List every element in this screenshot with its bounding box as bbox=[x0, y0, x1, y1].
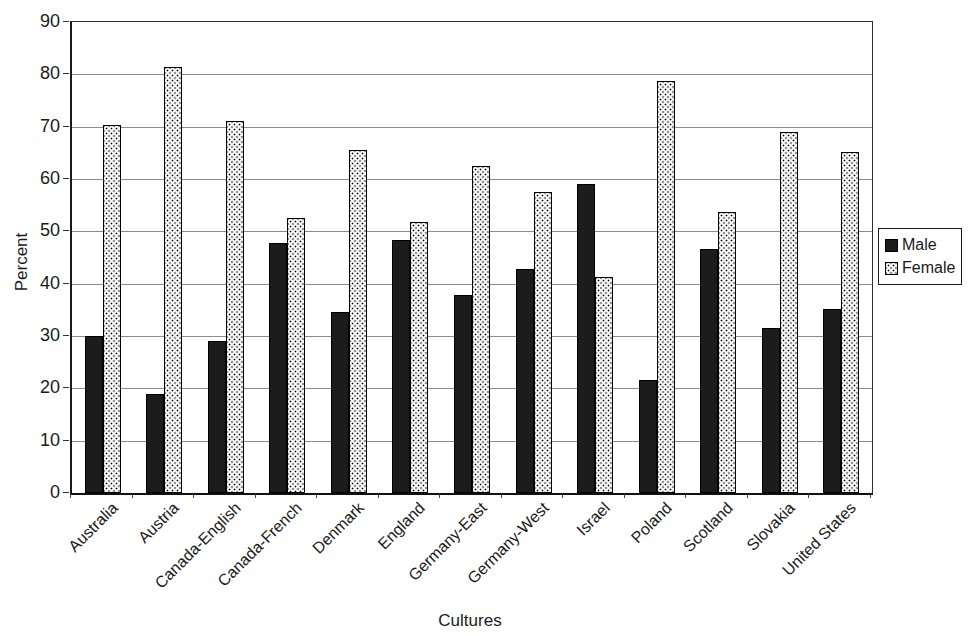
y-tick-mark-80 bbox=[63, 73, 69, 74]
x-axis-label-canada-french: Canada-French bbox=[180, 499, 305, 624]
y-tick-mark-70 bbox=[63, 126, 69, 127]
x-tick-mark-8 bbox=[562, 494, 563, 498]
x-axis-label-austria: Austria bbox=[57, 499, 182, 624]
y-tick-label-70: 70 bbox=[0, 117, 60, 135]
bar-male-united-states bbox=[823, 309, 841, 493]
bar-female-slovakia bbox=[780, 132, 798, 493]
bar-female-austria bbox=[164, 67, 182, 493]
y-tick-label-60: 60 bbox=[0, 169, 60, 187]
bar-chart-figure: Percent Cultures Male Female 01020304050… bbox=[0, 0, 968, 636]
y-tick-mark-0 bbox=[63, 492, 69, 493]
bar-male-austria bbox=[146, 394, 164, 493]
y-axis-title: Percent bbox=[12, 180, 32, 344]
y-tick-label-30: 30 bbox=[0, 326, 60, 344]
bar-female-canada-french bbox=[287, 218, 305, 493]
x-tick-mark-9 bbox=[624, 494, 625, 498]
female-swatch-icon bbox=[885, 262, 898, 275]
bar-female-australia bbox=[103, 125, 121, 493]
y-tick-label-10: 10 bbox=[0, 431, 60, 449]
y-tick-label-50: 50 bbox=[0, 221, 60, 239]
y-tick-label-20: 20 bbox=[0, 378, 60, 396]
bar-female-germany-west bbox=[534, 192, 552, 493]
x-tick-mark-13 bbox=[870, 494, 871, 498]
x-axis-label-denmark: Denmark bbox=[242, 499, 367, 624]
bar-female-scotland bbox=[718, 212, 736, 493]
legend-label-female: Female bbox=[902, 259, 955, 277]
x-tick-mark-0 bbox=[70, 494, 71, 498]
bar-male-denmark bbox=[331, 312, 349, 493]
x-tick-mark-5 bbox=[378, 494, 379, 498]
bar-female-denmark bbox=[349, 150, 367, 493]
y-tick-mark-30 bbox=[63, 335, 69, 336]
legend: Male Female bbox=[878, 228, 962, 285]
bar-male-australia bbox=[85, 336, 103, 493]
legend-item-male: Male bbox=[885, 235, 956, 255]
y-tick-label-80: 80 bbox=[0, 64, 60, 82]
male-swatch-icon bbox=[885, 239, 898, 252]
y-tick-mark-20 bbox=[63, 387, 69, 388]
x-axis-label-germany-west: Germany-West bbox=[426, 499, 551, 624]
bar-female-germany-east bbox=[472, 166, 490, 493]
x-axis-label-israel: Israel bbox=[488, 499, 613, 624]
x-axis-label-canada-english: Canada-English bbox=[119, 499, 244, 624]
legend-label-male: Male bbox=[902, 236, 937, 254]
x-tick-mark-10 bbox=[685, 494, 686, 498]
y-tick-mark-50 bbox=[63, 230, 69, 231]
x-tick-mark-7 bbox=[501, 494, 502, 498]
y-tick-label-0: 0 bbox=[0, 483, 60, 501]
x-tick-mark-4 bbox=[316, 494, 317, 498]
bar-male-germany-east bbox=[454, 295, 472, 493]
x-tick-mark-11 bbox=[747, 494, 748, 498]
bar-male-germany-west bbox=[516, 269, 534, 493]
x-axis-label-australia: Australia bbox=[0, 499, 121, 624]
y-tick-label-40: 40 bbox=[0, 274, 60, 292]
bar-male-canada-english bbox=[208, 341, 226, 493]
x-axis-label-poland: Poland bbox=[549, 499, 674, 624]
y-tick-mark-60 bbox=[63, 178, 69, 179]
bar-male-england bbox=[392, 240, 410, 493]
x-tick-mark-1 bbox=[132, 494, 133, 498]
x-axis-label-slovakia: Slovakia bbox=[673, 499, 798, 624]
legend-item-female: Female bbox=[885, 258, 956, 278]
gridline-70 bbox=[72, 127, 872, 128]
bar-male-scotland bbox=[700, 249, 718, 493]
bar-male-slovakia bbox=[762, 328, 780, 493]
bar-female-poland bbox=[657, 81, 675, 493]
bar-male-poland bbox=[639, 380, 657, 493]
y-tick-label-90: 90 bbox=[0, 12, 60, 30]
x-tick-mark-12 bbox=[808, 494, 809, 498]
bar-male-israel bbox=[577, 184, 595, 493]
plot-area bbox=[70, 21, 873, 495]
y-tick-mark-90 bbox=[63, 21, 69, 22]
bar-female-canada-english bbox=[226, 121, 244, 493]
x-axis-label-england: England bbox=[303, 499, 428, 624]
x-tick-mark-6 bbox=[439, 494, 440, 498]
x-axis-label-united-states: United States bbox=[734, 499, 859, 624]
bar-male-canada-french bbox=[269, 243, 287, 493]
x-axis-label-germany-east: Germany-East bbox=[365, 499, 490, 624]
x-axis-label-scotland: Scotland bbox=[611, 499, 736, 624]
x-tick-mark-3 bbox=[255, 494, 256, 498]
y-tick-mark-40 bbox=[63, 283, 69, 284]
bar-female-united-states bbox=[841, 152, 859, 493]
y-tick-mark-10 bbox=[63, 440, 69, 441]
gridline-80 bbox=[72, 74, 872, 75]
bar-female-israel bbox=[595, 277, 613, 493]
bar-female-england bbox=[410, 222, 428, 493]
x-tick-mark-2 bbox=[193, 494, 194, 498]
